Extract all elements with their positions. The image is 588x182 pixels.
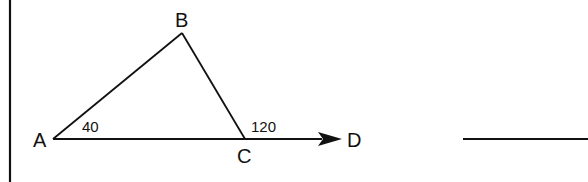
triangle-diagram: A B C D 40 120 [0,0,588,182]
angle-a-label: 40 [82,118,99,135]
side-bc [182,33,245,139]
vertex-label-a: A [33,129,47,151]
vertex-label-c: C [237,145,251,167]
vertex-label-b: B [175,9,188,31]
side-ab [53,33,182,139]
angle-c-exterior-label: 120 [251,118,276,135]
vertex-label-d: D [347,129,361,151]
